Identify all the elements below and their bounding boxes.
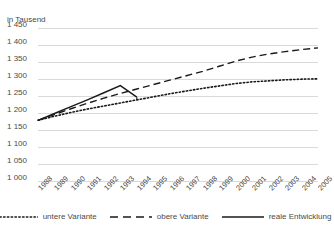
y-axis-tick-label: 1 100 [7, 139, 27, 148]
legend-item: untere Variante [0, 212, 97, 221]
y-axis-tick-label: 1 300 [7, 71, 27, 80]
y-axis-tick-label: 1 200 [7, 105, 27, 114]
legend-item: obere Variante [110, 212, 209, 221]
legend-item: reale Entwicklung [222, 212, 332, 221]
series-line-obere-variante [38, 48, 318, 120]
legend-swatch-dashed [110, 214, 152, 220]
series-line-untere-variante [38, 79, 318, 120]
y-axis-tick-label: 1 150 [7, 122, 27, 131]
legend-label: obere Variante [157, 212, 209, 221]
chart-legend: untere Varianteobere Variantereale Entwi… [0, 212, 327, 221]
legend-swatch-dotted [0, 214, 38, 220]
legend-swatch-solid [222, 214, 264, 220]
y-axis-tick-label: 1 250 [7, 88, 27, 97]
legend-label: reale Entwicklung [269, 212, 332, 221]
legend-label: untere Variante [43, 212, 97, 221]
y-axis-tick-label: 1 050 [7, 156, 27, 165]
y-axis-tick-label: 1 350 [7, 54, 27, 63]
y-axis-tick-label: 1 400 [7, 37, 27, 46]
y-axis-tick-label: 1 450 [7, 20, 27, 29]
y-axis-tick-label: 1 000 [7, 173, 27, 182]
